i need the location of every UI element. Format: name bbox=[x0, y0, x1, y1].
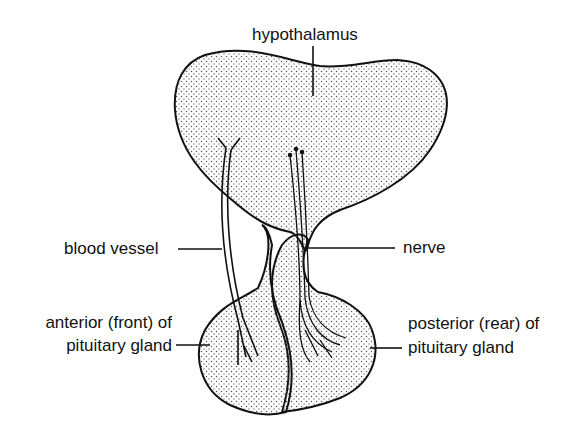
label-hypothalamus: hypothalamus bbox=[252, 24, 358, 45]
label-posterior-line1: posterior (rear) of bbox=[408, 313, 539, 334]
label-anterior-line1: anterior (front) of bbox=[22, 312, 172, 333]
label-blood-vessel: blood vessel bbox=[64, 238, 159, 259]
pituitary-diagram bbox=[0, 0, 578, 433]
label-anterior-line2: pituitary gland bbox=[22, 335, 172, 356]
label-posterior-line2: pituitary gland bbox=[408, 337, 514, 358]
hypothalamus-shape bbox=[175, 51, 447, 251]
label-nerve: nerve bbox=[403, 237, 446, 258]
